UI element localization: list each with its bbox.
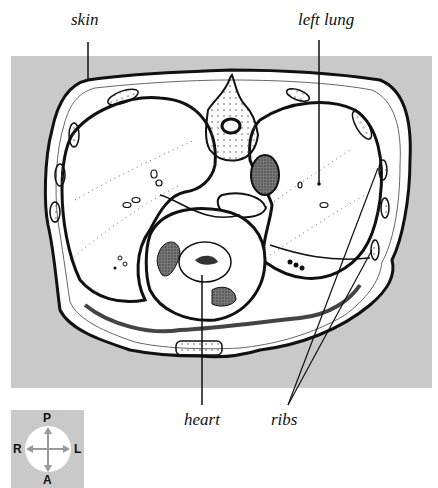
vessel bbox=[288, 260, 293, 265]
rib bbox=[371, 240, 379, 260]
anterior-label: A bbox=[43, 473, 52, 487]
vessel bbox=[114, 267, 117, 270]
aorta bbox=[251, 155, 279, 195]
rib bbox=[381, 198, 389, 218]
heart-label: heart bbox=[184, 410, 220, 430]
vessel bbox=[294, 263, 299, 268]
left-label: L bbox=[74, 442, 81, 456]
left-lung-label: left lung bbox=[298, 10, 354, 30]
spinal-canal bbox=[222, 119, 240, 133]
left-lung-leader-dot bbox=[317, 182, 321, 186]
rib bbox=[379, 160, 387, 180]
right-label: R bbox=[13, 442, 22, 456]
posterior-label: P bbox=[43, 411, 51, 425]
rib bbox=[55, 164, 65, 186]
orientation-key: P A R L bbox=[11, 410, 84, 488]
rib bbox=[50, 202, 60, 222]
ribs-label: ribs bbox=[271, 410, 297, 430]
rib bbox=[69, 123, 79, 147]
vessel bbox=[300, 266, 305, 271]
skin-label: skin bbox=[71, 10, 98, 30]
sternum bbox=[176, 341, 222, 355]
